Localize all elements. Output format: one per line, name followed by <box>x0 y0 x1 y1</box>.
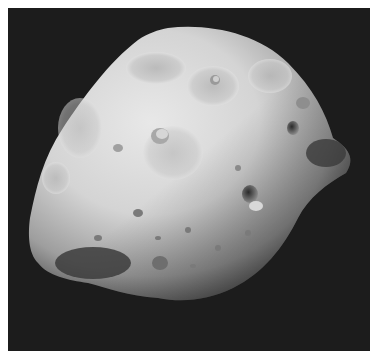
photo-frame <box>8 8 370 351</box>
moon-illustration <box>8 8 370 351</box>
